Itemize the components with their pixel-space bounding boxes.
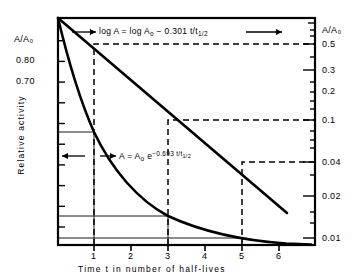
semilog-straight-line (58, 18, 287, 213)
right-axis-tick-0.5: 0.5 (322, 39, 335, 49)
right-axis-tick-0.01: 0.01 (322, 233, 341, 243)
x-axis-tick-2: 2 (128, 251, 133, 261)
right-axis-ticks (303, 23, 315, 238)
right-axis-tick-0.1: 0.1 (322, 115, 335, 125)
right-axis-tick-0.3: 0.3 (322, 65, 335, 75)
right-axis-tick-0.04: 0.04 (322, 157, 341, 167)
x-axis-tick-4: 4 (202, 251, 207, 261)
right-axis-tick-0.02: 0.02 (322, 191, 341, 201)
chart-canvas (0, 0, 360, 279)
exp-equation-annotation: A = Ao e−0.693 t/t1/2 (119, 150, 191, 162)
right-axis-tick-0.2: 0.2 (322, 86, 335, 96)
log-equation-annotation: log A = log Ao − 0.301 t/t1/2 (99, 26, 208, 37)
decay-chart: A/A₀ 0.80 0.70 Relative activity A/A₀ 0.… (0, 0, 360, 279)
x-axis-title: Time t in number of half-lives (78, 264, 226, 274)
left-axis-tick-0.80: 0.80 (16, 55, 35, 65)
dashed-guide-lines (94, 44, 315, 245)
x-axis-tick-5: 5 (239, 251, 244, 261)
left-axis-tick-0.70: 0.70 (16, 76, 35, 86)
right-axis-unit-label: A/A₀ (322, 25, 341, 35)
y-axis-title: Relative activity (16, 95, 26, 175)
x-axis-tick-1: 1 (91, 251, 96, 261)
solid-guide-lines (58, 132, 242, 245)
x-axis-tick-3: 3 (165, 251, 170, 261)
left-axis-unit-label: A/A₀ (14, 34, 33, 44)
x-axis-tick-6: 6 (276, 251, 281, 261)
